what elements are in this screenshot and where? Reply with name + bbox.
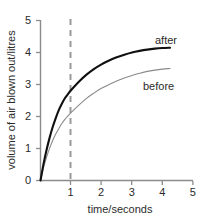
y-tick-label-3: 3 xyxy=(25,78,31,90)
y-tick-label-0: 0 xyxy=(25,174,31,186)
x-tick-label-4: 4 xyxy=(159,186,165,198)
y-tick-label-4: 4 xyxy=(25,46,31,58)
y-axis-title: volume of air blown out/litres xyxy=(5,30,17,170)
y-tick-label-1: 1 xyxy=(25,142,31,154)
x-tick-label-1: 1 xyxy=(67,186,73,198)
chart-container: 0 1 2 3 4 5 1 2 3 4 5 after before time/… xyxy=(0,0,205,220)
x-tick-label-3: 3 xyxy=(129,186,135,198)
chart-plot-area: 0 1 2 3 4 5 1 2 3 4 5 after before time/… xyxy=(0,0,205,220)
x-tick-label-5: 5 xyxy=(190,186,196,198)
series-line-after xyxy=(41,48,171,181)
series-label-before: before xyxy=(143,80,174,92)
y-tick-label-2: 2 xyxy=(25,110,31,122)
x-axis-ticks xyxy=(71,181,193,185)
x-axis-title: time/seconds xyxy=(88,203,153,215)
y-axis-ticks xyxy=(36,21,40,181)
series-label-after: after xyxy=(155,34,177,46)
y-tick-label-5: 5 xyxy=(25,14,31,26)
x-tick-label-2: 2 xyxy=(98,186,104,198)
